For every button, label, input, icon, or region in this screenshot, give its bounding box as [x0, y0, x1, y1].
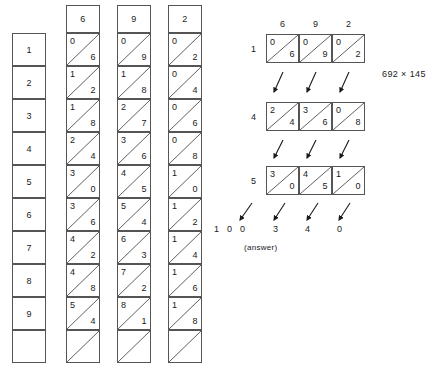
rod-cell: 3 6 [117, 132, 151, 165]
example-cell-tens: 3 [303, 106, 309, 115]
index-rod: 1 2 3 4 5 6 7 8 9 [12, 33, 46, 363]
rod-cell-tens: 3 [70, 202, 76, 211]
rod-9: 9 0 9 1 8 2 7 3 6 4 5 5 4 [117, 5, 151, 363]
index-value: 1 [13, 45, 45, 55]
rod-cell: 0 2 [168, 33, 202, 66]
rod-cell-tens: 2 [70, 136, 76, 145]
rod-cell-tens: 3 [121, 136, 127, 145]
rod-cell-tens: 5 [121, 202, 127, 211]
rod-cell: 2 4 [66, 132, 100, 165]
rod-cell: 3 0 [66, 165, 100, 198]
answer-digit: 3 [273, 224, 278, 234]
index-value: 2 [13, 78, 45, 88]
rod-cell: 7 2 [117, 264, 151, 297]
example-cell-tens: 1 [336, 170, 342, 179]
rod-cell [168, 330, 202, 363]
example-cell: 3 6 [299, 102, 332, 131]
arrow-row3-to-answer [240, 203, 350, 220]
rod-cell-ones: 0 [192, 185, 198, 194]
rod-cell: 1 2 [66, 66, 100, 99]
rod-head-cell: 9 [117, 5, 151, 33]
rod-cell: 1 8 [117, 66, 151, 99]
example-cell-ones: 9 [322, 50, 328, 59]
example-cell: 0 6 [266, 34, 299, 63]
rod-cell-ones: 2 [141, 284, 147, 293]
rod-cell [66, 330, 100, 363]
example-cell-ones: 4 [289, 118, 295, 127]
example-cell-ones: 6 [289, 50, 295, 59]
example-multiplier: 1 [240, 44, 256, 54]
example-cell: 2 4 [266, 102, 299, 131]
example-cell-tens: 0 [336, 106, 342, 115]
rod-cell-ones: 4 [90, 152, 96, 161]
rod-head-digit: 9 [118, 15, 150, 24]
rod-cell-tens: 0 [121, 37, 127, 46]
rod-cell: 5 4 [66, 297, 100, 330]
rod-cell: 1 0 [168, 165, 202, 198]
diagonal-line [118, 331, 150, 362]
index-cell: 7 [12, 231, 46, 264]
rod-cell: 0 4 [168, 66, 202, 99]
index-value: 7 [13, 243, 45, 253]
answer-digit: 0 [240, 224, 245, 234]
rod-cell: 1 6 [168, 264, 202, 297]
rod-cell-ones: 6 [192, 119, 198, 128]
example-cell-tens: 0 [303, 38, 309, 47]
example-cell: 0 2 [332, 34, 365, 63]
rod-cell: 5 4 [117, 198, 151, 231]
answer-caption: (answer) [244, 243, 278, 252]
rod-cell-ones: 5 [141, 185, 147, 194]
multiplication-expression: 692 × 145 [382, 69, 426, 79]
rod-cell: 6 3 [117, 231, 151, 264]
rod-cell-ones: 2 [192, 218, 198, 227]
rod-cell-ones: 6 [90, 218, 96, 227]
example-cell-ones: 2 [355, 50, 361, 59]
rod-cell-tens: 2 [121, 103, 127, 112]
diagonal-line [67, 331, 99, 362]
index-value: 3 [13, 111, 45, 121]
rod-cell-tens: 0 [172, 103, 178, 112]
answer-digit: 0 [337, 224, 342, 234]
example-cell-ones: 0 [289, 182, 295, 191]
rod-cell-tens: 0 [70, 37, 76, 46]
rod-cell-tens: 1 [172, 268, 178, 277]
example-cell-tens: 0 [336, 38, 342, 47]
answer-digit: 4 [305, 224, 310, 234]
rod-cell-ones: 8 [141, 86, 147, 95]
napier-bones-figure: 1 2 3 4 5 6 7 8 9 6 0 6 1 2 1 8 [0, 0, 426, 367]
rod-cell: 0 6 [66, 33, 100, 66]
index-cell: 2 [12, 66, 46, 99]
index-cell: 8 [12, 264, 46, 297]
rod-cell-tens: 0 [172, 136, 178, 145]
example-cell: 0 9 [299, 34, 332, 63]
rod-cell-ones: 3 [141, 251, 147, 260]
index-cell: 5 [12, 165, 46, 198]
example-cell-tens: 4 [303, 170, 309, 179]
rod-cell: 1 4 [168, 231, 202, 264]
rod-cell-tens: 4 [70, 268, 76, 277]
answer-digit: 1 [214, 224, 219, 234]
example-column-header: 9 [299, 19, 332, 29]
index-cell: 6 [12, 198, 46, 231]
example-cell: 1 0 [332, 166, 365, 195]
rod-cell-tens: 4 [70, 235, 76, 244]
rod-head-cell: 6 [66, 5, 100, 33]
rod-cell-ones: 2 [90, 86, 96, 95]
rod-cell-ones: 0 [90, 185, 96, 194]
rod-cell: 0 6 [168, 99, 202, 132]
rod-cell: 0 9 [117, 33, 151, 66]
rod-cell: 4 2 [66, 231, 100, 264]
rod-cell-tens: 5 [70, 301, 76, 310]
example-multiplier: 4 [240, 112, 256, 122]
rod-cell-ones: 8 [192, 317, 198, 326]
answer-digit: 0 [227, 224, 232, 234]
rod-cell [117, 330, 151, 363]
rod-cell-ones: 4 [192, 86, 198, 95]
example-cell: 3 0 [266, 166, 299, 195]
example-cell-ones: 0 [355, 182, 361, 191]
rod-cell-tens: 3 [70, 169, 76, 178]
rod-cell-tens: 1 [172, 202, 178, 211]
index-cell [12, 330, 46, 363]
rod-cell-ones: 2 [192, 53, 198, 62]
rod-cell-ones: 4 [192, 251, 198, 260]
